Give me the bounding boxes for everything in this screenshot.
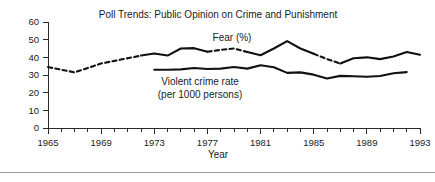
series-label-fear: Fear (%) [213, 32, 252, 43]
footer-divider [0, 172, 435, 173]
series-label-violent-crime-line1: Violent crime rate [161, 76, 239, 87]
x-axis-title: Year [208, 149, 229, 160]
line-chart: Poll Trends: Public Opinion on Crime and… [0, 0, 435, 182]
x-tick-label: 1981 [250, 137, 271, 148]
y-tick-label: 20 [28, 87, 39, 98]
x-tick-label: 1985 [303, 137, 324, 148]
x-tick-label: 1989 [356, 137, 377, 148]
series-fear-segment-4 [314, 54, 341, 64]
x-axis-ticks: 19651969197319771981198519891993 [37, 128, 430, 148]
x-tick-label: 1973 [144, 137, 165, 148]
x-tick-label: 1965 [37, 137, 58, 148]
chart-title: Poll Trends: Public Opinion on Crime and… [99, 9, 338, 20]
series-fear-segment-2 [207, 49, 247, 53]
series-fear-segment-3 [247, 41, 313, 55]
series-fear-segment-0 [48, 56, 141, 73]
series-label-violent-crime-line2: (per 1000 persons) [158, 89, 243, 100]
series-fear-segment-5 [340, 52, 420, 63]
y-tick-label: 10 [28, 105, 39, 116]
y-tick-label: 40 [28, 52, 39, 63]
chart-figure: Poll Trends: Public Opinion on Crime and… [0, 0, 435, 182]
y-tick-label: 0 [34, 122, 39, 133]
y-axis-ticks: 0102030405060 [28, 16, 48, 133]
y-tick-label: 30 [28, 69, 39, 80]
x-tick-label: 1969 [91, 137, 112, 148]
x-tick-label: 1977 [197, 137, 218, 148]
y-tick-label: 50 [28, 34, 39, 45]
y-tick-label: 60 [28, 16, 39, 27]
x-tick-label: 1993 [409, 137, 430, 148]
series-fear-segment-1 [141, 48, 207, 55]
